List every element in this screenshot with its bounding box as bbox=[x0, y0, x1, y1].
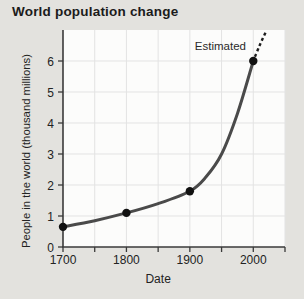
y-tick-label: 1 bbox=[47, 210, 54, 224]
data-point bbox=[59, 223, 67, 231]
estimated-label: Estimated bbox=[195, 40, 246, 52]
x-tick-label: 1700 bbox=[50, 253, 77, 267]
y-tick-label: 4 bbox=[47, 117, 54, 131]
y-tick-label: 0 bbox=[47, 241, 54, 255]
data-point bbox=[122, 209, 130, 217]
y-tick-label: 2 bbox=[47, 179, 54, 193]
page-background: World population change 1700180019002000… bbox=[0, 0, 304, 299]
x-axis-label: Date bbox=[145, 272, 171, 286]
x-tick-label: 2000 bbox=[240, 253, 267, 267]
y-tick-label: 6 bbox=[47, 55, 54, 69]
y-tick-label: 5 bbox=[47, 86, 54, 100]
population-line-chart: 17001800190020000123456EstimatedDatePeop… bbox=[0, 0, 304, 299]
y-axis-label: People in the world (thousand millions) bbox=[20, 54, 32, 248]
y-tick-label: 3 bbox=[47, 148, 54, 162]
data-point bbox=[186, 187, 194, 195]
x-tick-label: 1900 bbox=[177, 253, 204, 267]
x-tick-label: 1800 bbox=[113, 253, 140, 267]
data-point bbox=[249, 57, 257, 65]
